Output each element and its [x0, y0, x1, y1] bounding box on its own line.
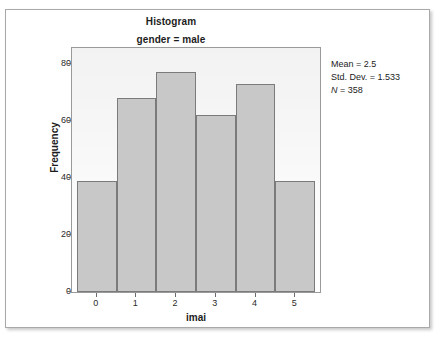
cut-off-caption-text	[6, 0, 306, 7]
x-axis-title: imai	[71, 312, 321, 323]
chart-title: Histogram	[6, 16, 336, 27]
x-tick-mark	[215, 293, 216, 297]
histogram-bar	[77, 181, 117, 292]
histogram-chart: Histogram gender = male Frequency 020406…	[6, 10, 429, 327]
stat-std-dev: Std. Dev. = 1.533	[331, 71, 426, 84]
x-tick-label: 0	[81, 298, 111, 308]
bars-layer	[72, 48, 320, 292]
x-tick-mark	[255, 293, 256, 297]
x-tick-mark	[96, 293, 97, 297]
x-tick-label: 2	[160, 298, 190, 308]
x-tick-mark	[294, 293, 295, 297]
histogram-bar	[117, 98, 157, 292]
stat-n-value: = 358	[338, 85, 363, 95]
x-tick-label: 5	[279, 298, 309, 308]
histogram-bar	[275, 181, 315, 292]
stat-mean: Mean = 2.5	[331, 58, 426, 71]
y-axis: Frequency 020406080	[36, 47, 71, 293]
y-axis-title: Frequency	[49, 93, 60, 203]
stat-n: N = 358	[331, 84, 426, 97]
plot-panel	[71, 47, 321, 293]
x-tick-label: 3	[200, 298, 230, 308]
x-tick-label: 4	[240, 298, 270, 308]
x-tick-label: 1	[120, 298, 150, 308]
x-axis: imai 012345	[71, 293, 321, 327]
histogram-bar	[236, 84, 276, 292]
histogram-bar	[196, 115, 236, 292]
statistics-annotation: Mean = 2.5 Std. Dev. = 1.533 N = 358	[331, 58, 426, 97]
x-tick-mark	[135, 293, 136, 297]
x-tick-mark	[175, 293, 176, 297]
figure-frame: Histogram gender = male Frequency 020406…	[5, 9, 430, 328]
chart-subtitle: gender = male	[6, 34, 336, 45]
histogram-bar	[156, 72, 196, 292]
